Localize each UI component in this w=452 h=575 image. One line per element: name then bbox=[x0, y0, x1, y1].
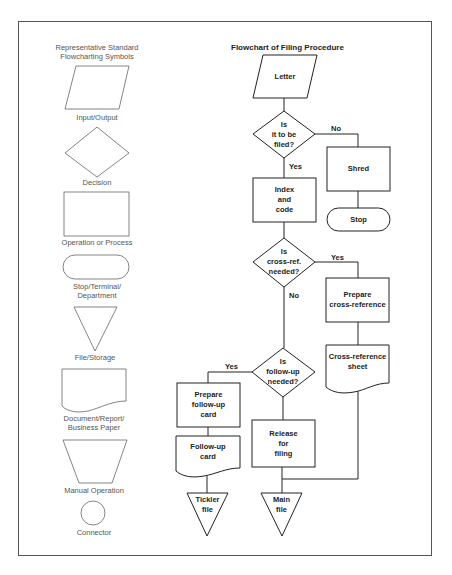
label-line: Connector bbox=[34, 528, 154, 537]
text-line: Is bbox=[266, 357, 299, 367]
text-line: code bbox=[275, 205, 295, 215]
text-line: Tickler bbox=[195, 495, 219, 505]
legend-label-manual: Manual Operation bbox=[34, 486, 154, 495]
text-line: follow-up bbox=[266, 367, 299, 377]
text-line: and bbox=[275, 195, 295, 205]
text-line: Letter bbox=[275, 72, 296, 82]
text-line: card bbox=[192, 410, 225, 420]
letter-text: Letter bbox=[256, 55, 314, 98]
label-line: Stop/Terminal/ bbox=[37, 282, 157, 291]
text-line: Main bbox=[273, 495, 290, 505]
label-line: Department bbox=[37, 291, 157, 300]
followup-decision-text: Isfollow-upneeded? bbox=[255, 353, 311, 391]
edge-label-crossref-yes: Yes bbox=[331, 253, 344, 262]
legend-title-line2: Flowcharting Symbols bbox=[27, 52, 167, 61]
text-line: Is bbox=[272, 120, 297, 130]
text-line: filing bbox=[269, 449, 297, 459]
text-line: for bbox=[269, 439, 297, 449]
legend-diamond-icon bbox=[65, 127, 129, 177]
edge-crossref-yes bbox=[315, 262, 358, 278]
legend-label-input-output: Input/Output bbox=[37, 113, 157, 122]
flowchart-title: Flowchart of Filing Procedure bbox=[231, 43, 344, 52]
release-filing-text: Releaseforfiling bbox=[252, 420, 315, 467]
legend-rectangle-icon bbox=[64, 192, 129, 236]
label-line: Input/Output bbox=[37, 113, 157, 122]
text-line: needed? bbox=[267, 267, 301, 277]
text-line: Index bbox=[275, 185, 295, 195]
legend-circle-icon bbox=[81, 501, 105, 525]
edge-filed-no bbox=[315, 134, 358, 147]
text-line: Release bbox=[269, 429, 297, 439]
legend-title-line1: Representative Standard bbox=[27, 43, 167, 52]
shred-text: Shred bbox=[327, 147, 390, 191]
label-line: Business Paper bbox=[34, 423, 154, 432]
crossref-sheet-text: Cross-referencesheet bbox=[326, 347, 389, 377]
filed-decision-text: Isit to befiled? bbox=[259, 116, 309, 154]
legend-label-operation: Operation or Process bbox=[37, 238, 157, 247]
edge-followup-yes bbox=[208, 372, 252, 383]
text-line: it to be bbox=[272, 130, 297, 140]
text-line: cross-ref. bbox=[267, 257, 301, 267]
legend-label-connector: Connector bbox=[34, 528, 154, 537]
label-line: Manual Operation bbox=[34, 486, 154, 495]
edge-label-filed-no: No bbox=[331, 124, 341, 133]
text-line: card bbox=[190, 452, 225, 462]
label-line: Document/Report/ bbox=[34, 414, 154, 423]
text-line: Follow-up bbox=[190, 442, 225, 452]
prepare-crossref-text: Preparecross-reference bbox=[326, 278, 389, 322]
stop-text: Stop bbox=[327, 208, 390, 231]
text-line: sheet bbox=[329, 362, 387, 372]
tickler-file-text: Ticklerfile bbox=[187, 494, 228, 516]
legend-trapezoid-icon bbox=[63, 440, 127, 483]
text-line: Stop bbox=[350, 215, 367, 225]
followup-card-text: Follow-upcard bbox=[176, 438, 240, 466]
legend-label-decision: Decision bbox=[37, 178, 157, 187]
legend-document-icon bbox=[62, 369, 126, 412]
text-line: Shred bbox=[348, 164, 369, 174]
text-line: filed? bbox=[272, 140, 297, 150]
text-line: Cross-reference bbox=[329, 352, 387, 362]
legend-title: Representative Standard Flowcharting Sym… bbox=[27, 43, 167, 61]
legend-terminal-icon bbox=[63, 255, 129, 279]
text-line: follow-up bbox=[192, 400, 225, 410]
crossref-decision-text: Iscross-ref.needed? bbox=[256, 243, 312, 281]
edge-label-filed-yes: Yes bbox=[289, 162, 302, 171]
text-line: needed? bbox=[266, 377, 299, 387]
label-line: Decision bbox=[37, 178, 157, 187]
legend-label-file-storage: File/Storage bbox=[35, 353, 155, 362]
main-file-text: Mainfile bbox=[261, 494, 302, 516]
legend-parallelogram-icon bbox=[65, 66, 129, 109]
text-line: file bbox=[273, 505, 290, 515]
text-line: cross-reference bbox=[329, 300, 385, 310]
edge-label-crossref-no: No bbox=[289, 291, 299, 300]
text-line: file bbox=[195, 505, 219, 515]
label-line: Operation or Process bbox=[37, 238, 157, 247]
text-line: Is bbox=[267, 247, 301, 257]
legend-label-document: Document/Report/Business Paper bbox=[34, 414, 154, 432]
legend-triangle-icon bbox=[74, 307, 117, 351]
text-line: Prepare bbox=[329, 290, 385, 300]
edge-label-followup-yes: Yes bbox=[225, 362, 238, 371]
label-line: File/Storage bbox=[35, 353, 155, 362]
text-line: Prepare bbox=[192, 390, 225, 400]
legend-label-terminal: Stop/Terminal/Department bbox=[37, 282, 157, 300]
index-code-text: Indexandcode bbox=[253, 178, 316, 222]
prepare-followup-text: Preparefollow-upcard bbox=[177, 383, 240, 427]
